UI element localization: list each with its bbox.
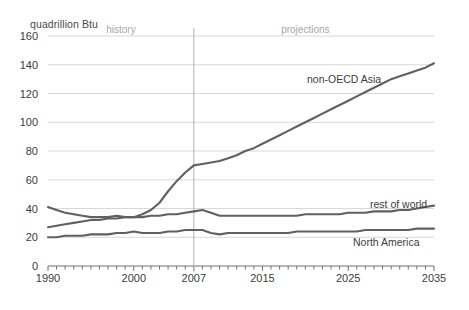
x-axis-tick-label: 1990	[36, 272, 60, 284]
series-label-north-america: North America	[353, 236, 420, 248]
y-axis-tick-label: 0	[8, 260, 38, 272]
plot-area	[0, 0, 469, 310]
x-axis-tick-label: 2025	[336, 272, 360, 284]
y-axis-tick-label: 100	[8, 116, 38, 128]
series-label-rest-of-world: rest of world	[370, 198, 427, 210]
annotation-history: history	[106, 24, 135, 35]
y-axis-tick-label: 160	[8, 30, 38, 42]
x-axis-tick-label: 2015	[250, 272, 274, 284]
y-axis-tick-label: 40	[8, 203, 38, 215]
y-axis-tick-label: 20	[8, 231, 38, 243]
y-axis-tick-label: 140	[8, 59, 38, 71]
series-label-non-oecd-asia: non-OECD Asia	[307, 73, 381, 85]
y-axis-tick-label: 60	[8, 174, 38, 186]
x-axis-tick-label: 2000	[122, 272, 146, 284]
x-axis-tick-label: 2007	[182, 272, 206, 284]
energy-consumption-line-chart: quadrillion Btu 020406080100120140160 19…	[0, 0, 469, 310]
y-axis-tick-label: 120	[8, 88, 38, 100]
x-axis-tick-label: 2035	[422, 272, 446, 284]
annotation-projections: projections	[281, 24, 329, 35]
y-axis-tick-label: 80	[8, 145, 38, 157]
